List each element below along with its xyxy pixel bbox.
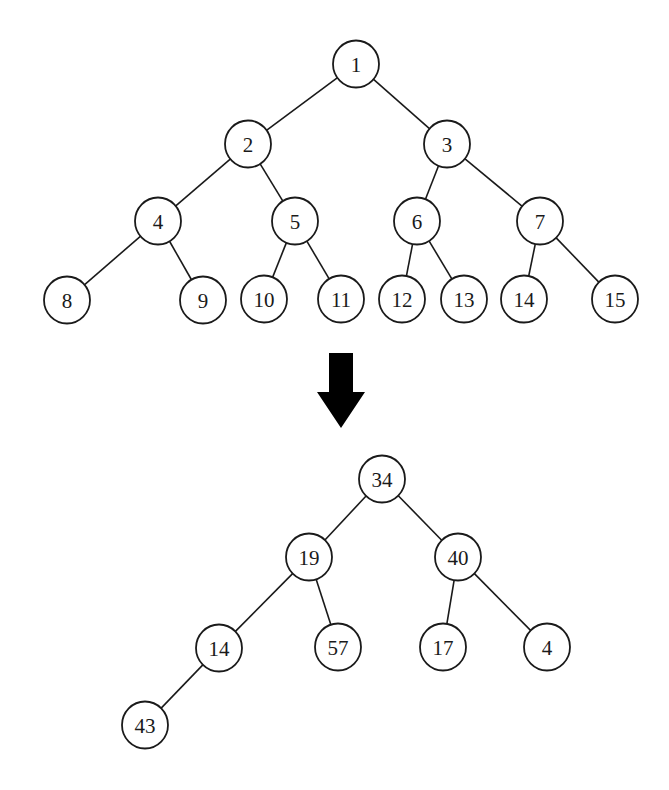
tree-edge — [425, 165, 438, 199]
node-label: 13 — [454, 288, 475, 312]
tree-node: 34 — [359, 456, 405, 503]
tree-edge — [406, 244, 412, 277]
tree-edge — [266, 78, 337, 131]
tree-edge — [556, 238, 599, 283]
tree-edge — [474, 573, 531, 630]
tree-edge — [307, 241, 330, 279]
node-label: 40 — [448, 546, 469, 570]
tree-node: 11 — [318, 276, 364, 323]
node-label: 11 — [331, 288, 351, 312]
node-label: 5 — [290, 210, 301, 234]
tree-node: 43 — [122, 702, 168, 749]
tree-diagram-canvas: 123456789101112131415 341940145717443 — [0, 0, 669, 790]
tree-node: 3 — [424, 121, 470, 168]
node-label: 3 — [442, 133, 453, 157]
tree-node: 14 — [196, 625, 242, 672]
bottom-tree-values: 341940145717443 — [122, 456, 570, 749]
tree-node: 8 — [44, 277, 90, 324]
tree-node: 17 — [420, 624, 466, 671]
node-label: 9 — [198, 289, 209, 313]
tree-node: 13 — [441, 276, 487, 323]
tree-edge — [260, 164, 283, 202]
tree-node: 6 — [394, 198, 440, 245]
node-label: 8 — [62, 289, 73, 313]
node-label: 12 — [392, 288, 413, 312]
bottom-tree-edges — [161, 495, 531, 708]
top-tree-nodes: 123456789101112131415 — [44, 41, 638, 324]
tree-node: 10 — [241, 276, 287, 323]
tree-edge — [235, 573, 293, 631]
top-tree-edges — [84, 78, 599, 285]
node-label: 17 — [433, 636, 454, 660]
tree-node: 4 — [524, 624, 570, 671]
tree-node: 40 — [435, 534, 481, 581]
tree-node: 7 — [517, 198, 563, 245]
tree-edge — [529, 244, 536, 277]
node-label: 14 — [514, 288, 536, 312]
tree-node: 1 — [333, 41, 379, 88]
tree-edge — [175, 159, 230, 206]
node-label: 43 — [135, 714, 156, 738]
tree-edge — [316, 579, 331, 625]
tree-edge — [272, 242, 286, 277]
down-arrow-icon — [317, 353, 365, 428]
tree-node: 15 — [592, 276, 638, 323]
tree-edge — [373, 79, 429, 129]
tree-node: 4 — [135, 198, 181, 245]
tree-node: 5 — [272, 198, 318, 245]
node-label: 4 — [542, 636, 553, 660]
tree-node: 9 — [180, 277, 226, 324]
tree-edge — [161, 665, 203, 709]
tree-edge — [169, 241, 191, 280]
tree-edge — [429, 241, 452, 280]
node-label: 4 — [153, 210, 164, 234]
tree-edge — [447, 580, 454, 625]
node-label: 10 — [254, 288, 275, 312]
tree-edge — [84, 236, 140, 285]
down-arrow-shape — [317, 353, 365, 428]
node-label: 6 — [412, 210, 423, 234]
node-label: 14 — [209, 637, 231, 661]
node-label: 34 — [372, 468, 394, 492]
tree-node: 57 — [315, 624, 361, 671]
tree-node: 2 — [225, 121, 271, 168]
node-label: 1 — [351, 53, 362, 77]
tree-edge — [465, 159, 523, 207]
tree-node: 19 — [286, 534, 332, 581]
tree-edge — [398, 495, 442, 540]
node-label: 19 — [299, 546, 320, 570]
node-label: 15 — [605, 288, 626, 312]
node-label: 57 — [328, 636, 349, 660]
node-label: 2 — [243, 133, 254, 157]
top-tree-complete-binary: 123456789101112131415 — [44, 41, 638, 324]
tree-edge — [325, 496, 367, 540]
tree-node: 12 — [379, 276, 425, 323]
node-label: 7 — [535, 210, 546, 234]
tree-node: 14 — [501, 276, 547, 323]
